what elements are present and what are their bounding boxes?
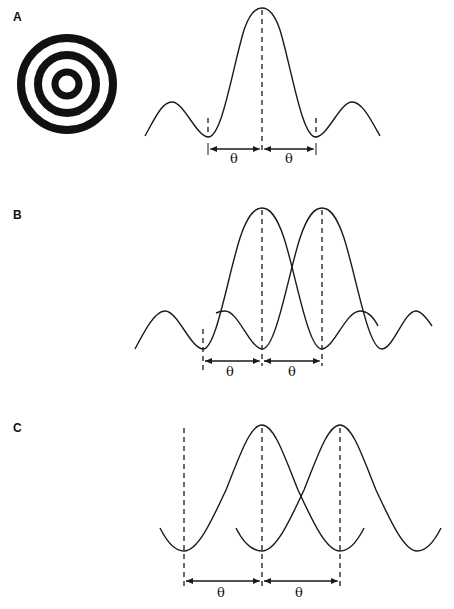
- panel-c-curve-left: [160, 425, 364, 551]
- panel-c-theta-right: θ: [295, 585, 303, 600]
- panel-b-theta-right: θ: [288, 364, 296, 379]
- panel-c-curve-right: [236, 425, 441, 551]
- panel-a-theta-left: θ: [230, 151, 238, 166]
- panel-c-theta-left: θ: [217, 585, 225, 600]
- panel-b-label: B: [13, 208, 22, 222]
- panel-b-theta-left: θ: [226, 364, 234, 379]
- panel-a-label: A: [13, 10, 22, 24]
- panel-c-label: C: [13, 421, 22, 435]
- panel-b: B θ θ: [13, 208, 432, 379]
- panel-b-curve-right: [216, 208, 432, 349]
- panel-a-intensity-curve: [145, 8, 380, 137]
- airy-rings-icon: [21, 38, 113, 130]
- panel-c: C θ θ: [13, 421, 441, 600]
- diffraction-figure: A θ θ B θ θ: [0, 0, 454, 609]
- panel-b-curve-left: [135, 208, 378, 349]
- panel-a: A θ θ: [13, 8, 380, 166]
- panel-a-theta-right: θ: [285, 151, 293, 166]
